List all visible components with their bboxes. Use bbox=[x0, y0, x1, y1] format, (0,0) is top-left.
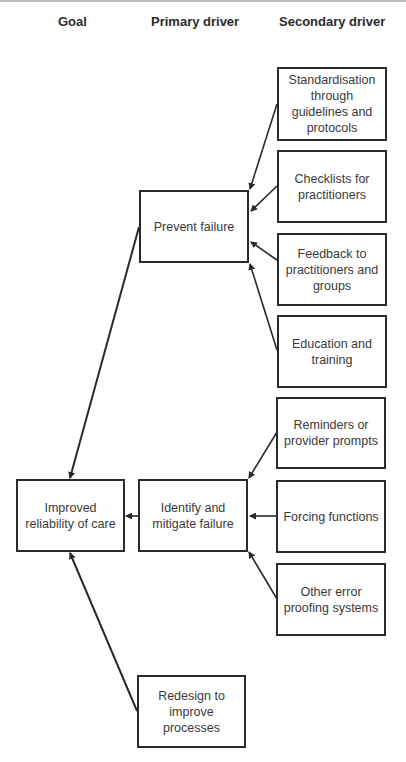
secondary-driver-reminders: Reminders or provider prompts bbox=[276, 397, 386, 469]
primary-driver-label: Redesign to improve processes bbox=[143, 688, 240, 736]
arrow-prevent-to-goal bbox=[70, 227, 139, 478]
secondary-driver-label: Standardisation through guidelines and p… bbox=[283, 72, 381, 136]
arrow-feedback-to-prevent bbox=[251, 242, 277, 260]
primary-driver-label: Identify and mitigate failure bbox=[144, 500, 242, 532]
goal-box: Improved reliability of care bbox=[16, 479, 125, 552]
goal-label: Improved reliability of care bbox=[22, 500, 119, 532]
arrow-reminders-to-identify bbox=[249, 432, 277, 478]
secondary-driver-checklists: Checklists for practitioners bbox=[277, 150, 387, 223]
arrow-checklists-to-prevent bbox=[251, 186, 277, 211]
secondary-driver-label: Education and training bbox=[283, 336, 381, 368]
secondary-driver-forcing-functions: Forcing functions bbox=[276, 480, 386, 553]
arrow-other-to-identify bbox=[249, 552, 277, 599]
secondary-driver-label: Feedback to practitioners and groups bbox=[283, 246, 381, 294]
primary-driver-identify-mitigate: Identify and mitigate failure bbox=[138, 479, 248, 552]
primary-driver-prevent-failure: Prevent failure bbox=[139, 190, 249, 263]
arrow-education-to-prevent bbox=[250, 264, 277, 350]
secondary-driver-error-proofing: Other error proofing systems bbox=[276, 563, 386, 636]
secondary-driver-standardisation: Standardisation through guidelines and p… bbox=[277, 67, 387, 141]
arrow-standardisation-to-prevent bbox=[250, 104, 277, 189]
secondary-driver-label: Forcing functions bbox=[283, 509, 378, 525]
secondary-driver-label: Other error proofing systems bbox=[282, 584, 380, 616]
secondary-driver-label: Checklists for practitioners bbox=[283, 171, 381, 203]
primary-driver-redesign: Redesign to improve processes bbox=[137, 675, 246, 748]
secondary-driver-feedback: Feedback to practitioners and groups bbox=[277, 233, 387, 306]
primary-driver-label: Prevent failure bbox=[154, 219, 235, 235]
secondary-driver-label: Reminders or provider prompts bbox=[282, 417, 380, 449]
arrow-redesign-to-goal bbox=[70, 553, 137, 711]
secondary-driver-education: Education and training bbox=[277, 315, 387, 388]
